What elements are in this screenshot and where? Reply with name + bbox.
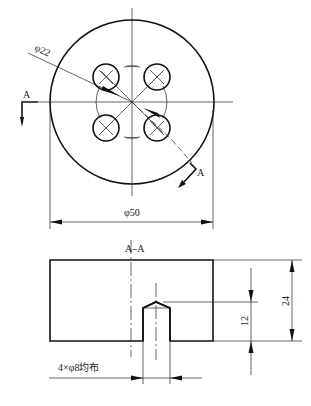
phi22-label: φ22: [33, 42, 52, 59]
svg-text:A: A: [197, 167, 205, 178]
hole-note-label: 4×φ8均布: [58, 362, 99, 373]
height-24-dimension: 24: [280, 260, 295, 341]
depth-12-label: 12: [239, 316, 250, 326]
hole-top-right: [144, 64, 170, 90]
hole-bottom-right: [144, 115, 170, 141]
section-title: A–A: [125, 243, 145, 254]
section-body: [50, 260, 213, 341]
hole-note: 4×φ8均布: [49, 341, 202, 384]
technical-drawing: φ22 A A φ50 A–A: [0, 0, 311, 406]
section-mark-left: A: [20, 89, 38, 127]
phi50-label: φ50: [124, 207, 140, 218]
phi50-dimension: φ50: [50, 110, 213, 229]
height-24-label: 24: [280, 296, 291, 306]
depth-12-dimension: 12: [239, 268, 254, 375]
section-view: A–A 12 24: [49, 240, 302, 384]
hole-top-left: [93, 64, 119, 90]
hole-bottom-left: [93, 115, 119, 141]
top-view: φ22 A A φ50: [20, 8, 233, 229]
svg-text:A: A: [23, 89, 31, 100]
